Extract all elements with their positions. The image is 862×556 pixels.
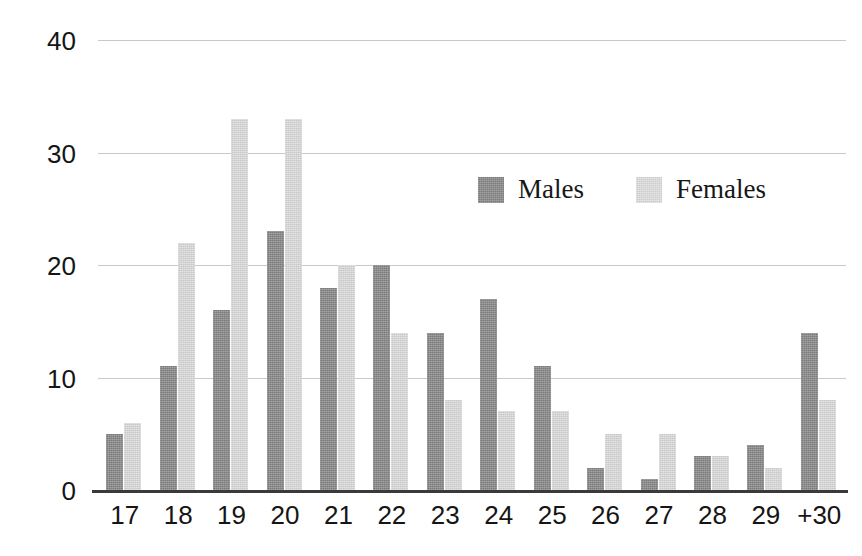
bar-females-plus30 xyxy=(819,400,836,490)
bar-females-20 xyxy=(285,119,302,490)
bar-males-29 xyxy=(747,445,764,490)
bar-males-17 xyxy=(106,434,123,490)
bar-males-27 xyxy=(641,479,658,490)
bar-males-23 xyxy=(427,333,444,491)
bar-males-plus30 xyxy=(801,333,818,491)
bar-males-22 xyxy=(373,265,390,490)
bar-females-21 xyxy=(338,265,355,490)
bar-females-26 xyxy=(605,434,622,490)
x-axis-labels: 17181920212223242526272829+30 xyxy=(98,500,846,544)
legend-label-males: Males xyxy=(518,174,584,205)
bar-males-24 xyxy=(480,299,497,490)
legend-entry-males: Males xyxy=(478,174,584,205)
y-tick-label-10: 10 xyxy=(16,364,76,395)
x-tick-label-plus30: +30 xyxy=(784,500,854,531)
female-swatch-icon xyxy=(636,177,662,203)
y-tick-label-40: 40 xyxy=(16,26,76,57)
y-tick-label-20: 20 xyxy=(16,251,76,282)
bar-chart: 40 30 20 10 0 Males Females 171819202122… xyxy=(0,0,862,556)
plot-area: Males Females xyxy=(98,30,846,500)
bar-females-17 xyxy=(124,423,141,491)
x-axis-line xyxy=(92,490,848,493)
bar-females-23 xyxy=(445,400,462,490)
legend-label-females: Females xyxy=(676,174,766,205)
bar-males-26 xyxy=(587,468,604,491)
bar-females-19 xyxy=(231,119,248,490)
y-tick-label-30: 30 xyxy=(16,139,76,170)
bar-males-18 xyxy=(160,366,177,490)
bar-males-20 xyxy=(267,231,284,490)
legend-entry-females: Females xyxy=(636,174,766,205)
bar-males-25 xyxy=(534,366,551,490)
bar-females-28 xyxy=(712,456,729,490)
bar-females-25 xyxy=(552,411,569,490)
bar-males-28 xyxy=(694,456,711,490)
bar-females-22 xyxy=(391,333,408,491)
bar-females-29 xyxy=(765,468,782,491)
bar-females-18 xyxy=(178,243,195,491)
bar-males-21 xyxy=(320,288,337,491)
y-tick-label-0: 0 xyxy=(16,476,76,507)
bar-males-19 xyxy=(213,310,230,490)
bars-layer xyxy=(98,30,846,490)
bar-females-27 xyxy=(659,434,676,490)
male-swatch-icon xyxy=(478,177,504,203)
bar-females-24 xyxy=(498,411,515,490)
